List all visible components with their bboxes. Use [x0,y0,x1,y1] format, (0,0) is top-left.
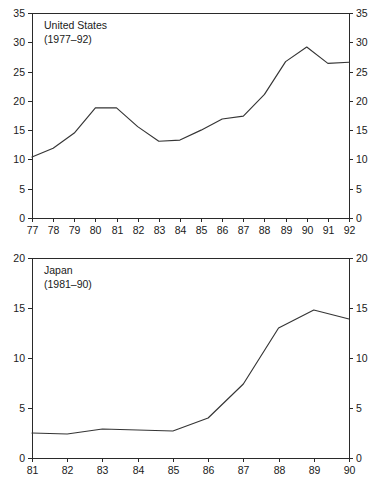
chart-svg-japan: 005510101515202081828384858687888990Japa… [0,240,381,484]
chart-title: United States [44,19,107,31]
x-axis-tick-label: 88 [274,464,286,476]
x-axis-tick-label: 80 [90,224,102,236]
x-axis-tick-label: 81 [27,464,39,476]
y-axis-tick-label-left: 5 [19,402,25,414]
x-axis-tick-label: 90 [302,224,314,236]
y-axis-tick-label-left: 20 [13,95,25,107]
y-axis-tick-label-left: 10 [13,352,25,364]
data-series-line [32,47,349,157]
x-axis-tick-label: 84 [175,224,187,236]
x-axis-tick-label: 85 [168,464,180,476]
y-axis-tick-label-right: 15 [356,124,368,136]
x-axis-tick-label: 77 [27,224,39,236]
x-axis-tick-label: 84 [133,464,145,476]
y-axis-tick-label-left: 25 [13,66,25,78]
y-axis-tick-label-left: 20 [13,252,25,264]
x-axis-tick-label: 91 [323,224,335,236]
chart-panel-united-states: 0055101015152020252530303535777879808182… [0,0,381,240]
x-axis-tick-label: 87 [238,224,250,236]
x-axis-tick-label: 89 [281,224,293,236]
y-axis-tick-label-right: 5 [356,183,362,195]
y-axis-tick-label-right: 20 [356,252,368,264]
chart-panel-japan: 005510101515202081828384858687888990Japa… [0,240,381,484]
x-axis-tick-label: 87 [238,464,250,476]
chart-subtitle: (1977–92) [44,33,92,45]
chart-svg-united-states: 0055101015152020252530303535777879808182… [0,0,381,240]
y-axis-tick-label-right: 35 [356,7,368,19]
y-axis-tick-label-right: 10 [356,153,368,165]
x-axis-tick-label: 86 [203,464,215,476]
y-axis-tick-label-right: 20 [356,95,368,107]
y-axis-tick-label-right: 0 [356,452,362,464]
x-axis-tick-label: 88 [259,224,271,236]
x-axis-tick-label: 86 [217,224,229,236]
y-axis-tick-label-right: 5 [356,402,362,414]
chart-title: Japan [44,264,73,276]
x-axis-tick-label: 78 [48,224,60,236]
y-axis-tick-label-left: 30 [13,36,25,48]
x-axis-tick-label: 79 [69,224,81,236]
y-axis-tick-label-right: 30 [356,36,368,48]
y-axis-tick-label-right: 0 [356,212,362,224]
y-axis-tick-label-right: 15 [356,302,368,314]
y-axis-tick-label-left: 15 [13,302,25,314]
x-axis-tick-label: 81 [112,224,124,236]
y-axis-tick-label-right: 25 [356,66,368,78]
x-axis-tick-label: 90 [344,464,356,476]
figure-two-line-charts: 0055101015152020252530303535777879808182… [0,0,381,484]
data-series-line [32,310,349,434]
y-axis-tick-label-left: 5 [19,183,25,195]
y-axis-tick-label-left: 15 [13,124,25,136]
x-axis-tick-label: 82 [62,464,74,476]
y-axis-tick-label-left: 10 [13,153,25,165]
y-axis-tick-label-right: 10 [356,352,368,364]
x-axis-tick-label: 83 [154,224,166,236]
x-axis-tick-label: 92 [344,224,356,236]
chart-subtitle: (1981–90) [44,278,92,290]
x-axis-tick-label: 85 [196,224,208,236]
x-axis-tick-label: 89 [309,464,321,476]
y-axis-tick-label-left: 0 [19,452,25,464]
y-axis-tick-label-left: 35 [13,7,25,19]
x-axis-tick-label: 83 [97,464,109,476]
x-axis-tick-label: 82 [133,224,145,236]
y-axis-tick-label-left: 0 [19,212,25,224]
